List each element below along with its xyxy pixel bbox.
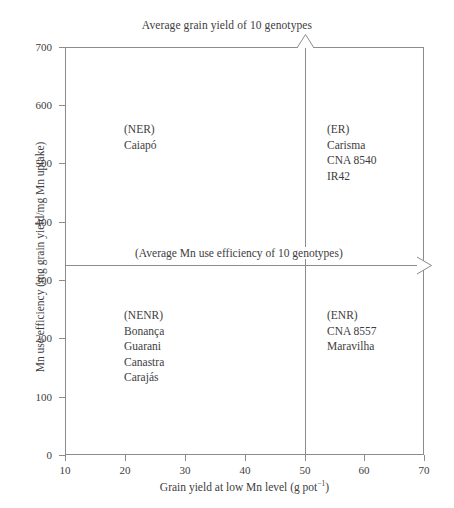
x-tick-20 (125, 455, 126, 461)
x-tick-10 (65, 455, 66, 461)
up-arrow-icon (294, 33, 317, 49)
y-tick-500 (59, 163, 65, 164)
quadrant-enr-genotype-0: CNA 8557 (327, 324, 377, 340)
quadrant-nenr-code: (NENR) (124, 308, 164, 324)
chart-title: Average grain yield of 10 genotypes (0, 19, 454, 31)
quadrant-nenr-genotype-0: Bonança (124, 324, 164, 340)
x-tick-40 (245, 455, 246, 461)
genotype-quadrant-chart: Average grain yield of 10 genotypes 700 … (0, 0, 454, 508)
x-tick-label-40: 40 (225, 464, 265, 476)
quadrant-er-genotype-0: Carisma (327, 138, 377, 154)
x-axis-title-end: ) (325, 481, 329, 493)
quadrant-nenr-genotype-3: Carajás (124, 370, 164, 386)
x-tick-label-20: 20 (105, 464, 145, 476)
y-tick-label-0: 0 (0, 449, 52, 461)
quadrant-er-genotype-2: IR42 (327, 169, 377, 185)
x-tick-label-50: 50 (285, 464, 325, 476)
y-axis-title: Mn use efficiency (mg grain yield/mg Mn … (34, 107, 46, 407)
quadrant-label-ner: (NER) Caiapó (124, 122, 157, 153)
x-tick-50 (305, 455, 306, 461)
quadrant-label-nenr: (NENR) Bonança Guarani Canastra Carajás (124, 308, 164, 386)
quadrant-er-code: (ER) (327, 122, 377, 138)
quadrant-enr-code: (ENR) (327, 308, 377, 324)
y-tick-200 (59, 338, 65, 339)
quadrant-nenr-genotype-1: Guarani (124, 339, 164, 355)
y-tick-label-700: 700 (0, 41, 52, 53)
horizontal-reference-line-caption: (Average Mn use efficiency of 10 genotyp… (133, 247, 345, 259)
x-tick-label-70: 70 (404, 464, 444, 476)
y-tick-400 (59, 222, 65, 223)
x-tick-30 (185, 455, 186, 461)
y-tick-100 (59, 397, 65, 398)
x-tick-label-60: 60 (344, 464, 384, 476)
quadrant-ner-code: (NER) (124, 122, 157, 138)
horizontal-reference-line-average-mn-use-efficiency (65, 265, 424, 266)
quadrant-ner-genotype-0: Caiapó (124, 138, 157, 154)
x-tick-60 (364, 455, 365, 461)
y-tick-300 (59, 280, 65, 281)
quadrant-label-er: (ER) Carisma CNA 8540 IR42 (327, 122, 377, 184)
quadrant-er-genotype-1: CNA 8540 (327, 153, 377, 169)
x-axis-title: Grain yield at low Mn level (g pot−1) (65, 481, 424, 493)
quadrant-nenr-genotype-2: Canastra (124, 355, 164, 371)
right-arrow-icon (416, 254, 433, 277)
y-tick-600 (59, 105, 65, 106)
x-tick-label-30: 30 (165, 464, 205, 476)
quadrant-label-enr: (ENR) CNA 8557 Maravilha (327, 308, 377, 355)
x-tick-70 (424, 455, 425, 461)
quadrant-enr-genotype-1: Maravilha (327, 339, 377, 355)
x-axis-title-main: Grain yield at low Mn level (g pot (160, 481, 317, 493)
x-tick-label-10: 10 (45, 464, 85, 476)
y-tick-700 (59, 47, 65, 48)
